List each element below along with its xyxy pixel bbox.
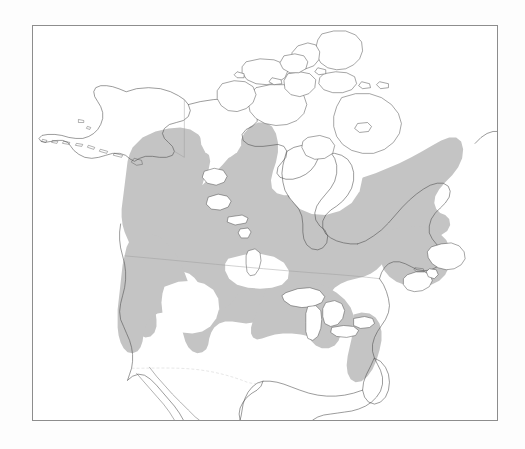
island-small-arctic-d [359,82,371,89]
figure-container [0,0,525,449]
border-us-mexico [132,368,263,384]
coastline-gulf [240,381,362,420]
island-pribilof [87,126,91,129]
coastline-baja [128,374,184,420]
coastline-mexico-east [239,381,263,420]
island-ellesmere [316,31,363,70]
coastline-greenland [475,131,497,143]
island-nunivak [79,120,84,123]
island-small-arctic-b [315,68,326,75]
coastline-gulf-california [137,373,175,420]
range-hole-great-basin [161,281,219,334]
map-canvas [33,26,497,420]
coastline-sonora [149,367,199,420]
map-frame [32,25,498,421]
islands-aleutian [42,139,123,157]
island-small-arctic-e [377,82,389,89]
island-devon [319,72,357,93]
